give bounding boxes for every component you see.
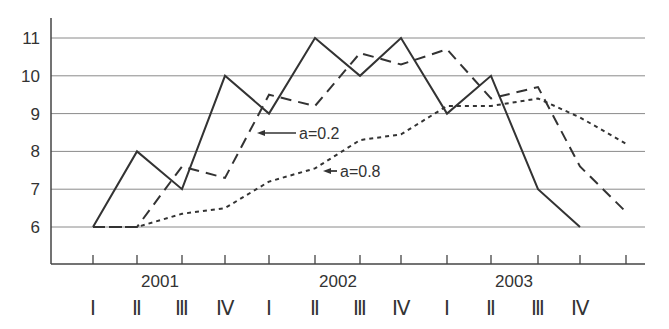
- year-labels: 200120022003: [141, 272, 533, 291]
- arrowhead-icon: [323, 168, 331, 174]
- quarter-label: Ⅳ: [571, 297, 590, 319]
- y-tick-labels: 67891011: [21, 29, 40, 237]
- quarter-label: Ⅱ: [486, 297, 496, 319]
- quarter-label: Ⅰ: [90, 297, 96, 319]
- y-tick-label: 9: [31, 105, 40, 124]
- quarter-label: Ⅳ: [216, 297, 235, 319]
- quarter-label: Ⅳ: [392, 297, 411, 319]
- quarter-label: Ⅱ: [132, 297, 142, 319]
- y-tick-label: 7: [31, 180, 40, 199]
- quarter-label: Ⅲ: [531, 297, 545, 319]
- annotation-a08: a=0.8: [323, 163, 381, 180]
- y-tick-label: 8: [31, 142, 40, 161]
- data-series: [93, 38, 626, 227]
- x-ticks: [93, 255, 626, 264]
- year-label: 2002: [319, 272, 357, 291]
- quarter-labels: ⅠⅡⅢⅣⅠⅡⅢⅣⅠⅡⅢⅣ: [90, 297, 590, 319]
- year-label: 2001: [141, 272, 179, 291]
- year-label: 2003: [495, 272, 533, 291]
- quarter-label: Ⅰ: [266, 297, 272, 319]
- quarter-label: Ⅲ: [175, 297, 189, 319]
- series-annotations: a=0.2 a=0.8: [257, 125, 381, 180]
- y-tick-label: 11: [22, 29, 40, 48]
- quarter-label: Ⅱ: [310, 297, 320, 319]
- annotation-label-a08: a=0.8: [340, 163, 381, 180]
- line-chart: 67891011 200120022003 ⅠⅡⅢⅣⅠⅡⅢⅣⅠⅡⅢⅣ a=0.2…: [0, 0, 669, 329]
- annotation-label-a02: a=0.2: [299, 125, 340, 142]
- y-tick-label: 10: [21, 67, 40, 86]
- quarter-label: Ⅰ: [444, 297, 450, 319]
- annotation-a02: a=0.2: [257, 125, 340, 142]
- quarter-label: Ⅲ: [353, 297, 367, 319]
- arrowhead-icon: [257, 130, 265, 136]
- y-tick-label: 6: [31, 218, 40, 237]
